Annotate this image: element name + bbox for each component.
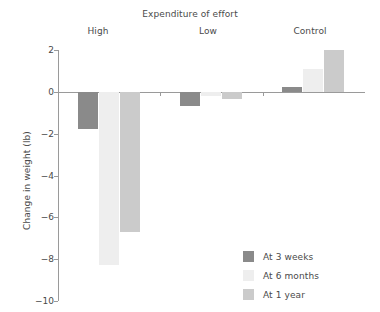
bar[interactable] — [180, 92, 200, 107]
bar[interactable] — [222, 92, 242, 99]
y-tick-mark — [54, 92, 58, 93]
bar[interactable] — [324, 50, 344, 92]
bar[interactable] — [303, 69, 323, 92]
y-tick-mark — [54, 259, 58, 260]
legend-item[interactable]: At 1 year — [243, 285, 373, 304]
legend-item[interactable]: At 6 months — [243, 266, 373, 285]
y-tick-label: −8 — [41, 254, 54, 264]
y-tick-label: −6 — [41, 212, 54, 222]
y-tick-mark — [54, 50, 58, 51]
legend: At 3 weeks At 6 months At 1 year — [243, 247, 373, 304]
y-tick-mark — [54, 301, 58, 302]
y-tick-label: −2 — [41, 129, 54, 139]
legend-swatch-icon — [243, 289, 254, 300]
y-axis-label: Change in weight (lb) — [22, 131, 32, 230]
y-tick-label: 0 — [48, 87, 54, 97]
legend-item[interactable]: At 3 weeks — [243, 247, 373, 266]
group-label-high: High — [38, 26, 158, 36]
chart-title: Expenditure of effort — [0, 9, 380, 19]
bar-chart: Expenditure of effort High Low Control C… — [0, 0, 380, 312]
legend-label: At 1 year — [263, 290, 305, 300]
y-tick-label: −10 — [35, 296, 54, 306]
legend-swatch-icon — [243, 251, 254, 262]
y-tick-label: 2 — [48, 45, 54, 55]
bar[interactable] — [282, 87, 302, 92]
x-tick-mark — [263, 92, 264, 96]
bar[interactable] — [78, 92, 98, 130]
group-label-control: Control — [250, 26, 370, 36]
bar[interactable] — [120, 92, 140, 232]
x-tick-mark — [160, 92, 161, 96]
bar[interactable] — [201, 92, 221, 96]
y-tick-mark — [54, 176, 58, 177]
y-tick-label: −4 — [41, 171, 54, 181]
y-tick-mark — [54, 134, 58, 135]
bar[interactable] — [99, 92, 119, 266]
y-axis-line — [58, 50, 59, 301]
legend-label: At 6 months — [263, 271, 319, 281]
y-tick-mark — [54, 217, 58, 218]
legend-label: At 3 weeks — [263, 252, 313, 262]
legend-swatch-icon — [243, 270, 254, 281]
